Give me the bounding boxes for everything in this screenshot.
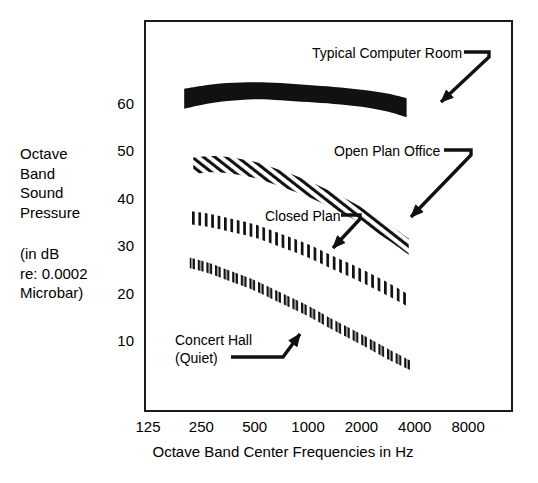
x-tick-label: 8000 <box>451 419 484 434</box>
x-tick-label: 2000 <box>345 419 378 434</box>
y-tick-label: 10 <box>88 333 134 348</box>
x-axis-ticks: 1252505001000200040008000 <box>0 419 538 439</box>
y-axis-ticks: 605040302010 <box>88 0 134 483</box>
y-tick-label: 30 <box>88 238 134 253</box>
annotation-concert-hall: Concert Hall <box>175 332 252 348</box>
annotation-concert-hall-quiet: (Quiet) <box>175 350 218 366</box>
chart-figure: Octave Band Sound Pressure (in dB re: 0.… <box>0 0 538 483</box>
x-tick-label: 125 <box>135 419 160 434</box>
annotation-open-plan-office: Open Plan Office <box>334 143 440 159</box>
y-tick-label: 50 <box>88 143 134 158</box>
annotation-closed-plan: Closed Plan <box>265 208 341 224</box>
x-tick-label: 1000 <box>291 419 324 434</box>
y-tick-label: 60 <box>88 96 134 111</box>
annotation-computer-room: Typical Computer Room <box>312 45 462 61</box>
y-tick-label: 20 <box>88 286 134 301</box>
x-tick-label: 500 <box>242 419 267 434</box>
x-axis-title: Octave Band Center Frequencies in Hz <box>0 443 538 460</box>
x-axis-title-text: Octave Band Center Frequencies in Hz <box>153 443 414 460</box>
y-tick-label: 40 <box>88 191 134 206</box>
x-tick-label: 4000 <box>398 419 431 434</box>
x-tick-label: 250 <box>189 419 214 434</box>
